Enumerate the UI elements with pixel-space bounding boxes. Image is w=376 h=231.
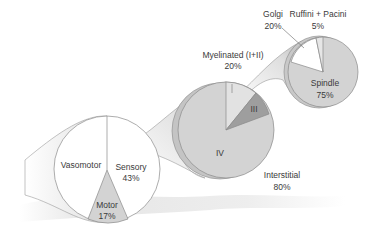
diagram-canvas [0,0,376,231]
label-spindle-pct: 75% [316,90,333,100]
label-interstitial: Interstitial [264,170,300,180]
label-myelinated: Myelinated (I+II) [202,50,263,60]
label-motor: Motor [96,200,118,210]
label-golgi-pct: 20% [264,21,281,31]
label-vasomotor: Vasomotor [61,160,101,170]
pie-2 [178,82,274,178]
label-sensory-pct: 43% [122,173,139,183]
label-ruffini-pacini-pct: 5% [312,21,324,31]
label-myelinated-pct: 20% [224,61,241,71]
label-golgi: Golgi [263,9,283,19]
label-spindle: Spindle [311,78,339,88]
label-sensory: Sensory [115,162,146,172]
label-iii: III [250,104,257,114]
label-interstitial-pct: 80% [273,182,290,192]
label-ruffini-pacini: Ruffini + Pacini [290,9,347,19]
label-motor-pct: 17% [98,211,115,221]
label-iv: IV [216,148,224,158]
